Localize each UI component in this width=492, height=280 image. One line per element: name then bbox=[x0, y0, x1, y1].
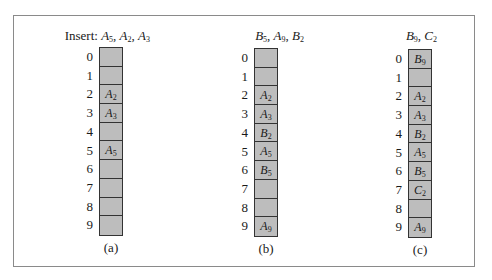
table-slot: B5 bbox=[409, 162, 431, 181]
slot-key-subscript: 2 bbox=[268, 132, 272, 141]
slot-index: 3 bbox=[234, 105, 248, 124]
table-slot: B9 bbox=[409, 50, 431, 69]
slot-index: 0 bbox=[388, 50, 402, 69]
slot-key-letter: A bbox=[414, 108, 421, 122]
slot-key-subscript: 5 bbox=[268, 169, 272, 178]
slot-key-subscript: 2 bbox=[422, 189, 426, 198]
table-slot bbox=[100, 179, 122, 198]
slot-index: 1 bbox=[234, 68, 248, 87]
slot-index: 9 bbox=[234, 217, 248, 236]
slot-key-subscript: 9 bbox=[422, 58, 426, 67]
table-slot: A3 bbox=[100, 104, 122, 123]
header-key: A3 bbox=[138, 28, 150, 43]
table-slot: A9 bbox=[255, 217, 277, 236]
slot-key-letter: B bbox=[414, 164, 421, 178]
slot-index: 7 bbox=[388, 181, 402, 200]
slot-key-letter: B bbox=[414, 52, 421, 66]
slot-index: 7 bbox=[234, 180, 248, 199]
table-slot: B2 bbox=[255, 124, 277, 143]
table-slot bbox=[255, 49, 277, 68]
slot-key-letter: A bbox=[105, 87, 112, 101]
slot-index: 6 bbox=[234, 161, 248, 180]
header-key: A9 bbox=[274, 28, 286, 43]
slot-index: 3 bbox=[388, 106, 402, 125]
table-slot bbox=[100, 216, 122, 235]
table-slot bbox=[409, 200, 431, 219]
slot-index: 6 bbox=[79, 160, 93, 179]
slot-key-subscript: 5 bbox=[422, 151, 426, 160]
panel-header: B9, C2 bbox=[406, 29, 437, 47]
slot-index: 5 bbox=[388, 144, 402, 163]
slot-index: 8 bbox=[234, 199, 248, 218]
slot-index: 2 bbox=[234, 86, 248, 105]
slot-key-subscript: 2 bbox=[113, 93, 117, 102]
header-key: B9 bbox=[406, 28, 418, 43]
table-slot bbox=[255, 68, 277, 87]
header-key: A2 bbox=[120, 28, 132, 43]
slot-index: 5 bbox=[79, 142, 93, 161]
slot-index: 8 bbox=[388, 200, 402, 219]
slot-index: 4 bbox=[388, 125, 402, 144]
table-slot bbox=[100, 123, 122, 142]
slot-index: 4 bbox=[79, 123, 93, 142]
table-slot bbox=[409, 69, 431, 88]
table-slot: B2 bbox=[409, 125, 431, 144]
slot-index: 5 bbox=[234, 143, 248, 162]
table-slot: A9 bbox=[409, 218, 431, 237]
panel-caption: (b) bbox=[251, 241, 281, 257]
table-slot bbox=[100, 198, 122, 217]
panel-caption: (c) bbox=[405, 242, 435, 258]
slot-key-subscript: 2 bbox=[422, 133, 426, 142]
panel-header: B5, A9, B2 bbox=[255, 29, 304, 47]
header-key: C2 bbox=[424, 28, 437, 43]
slot-key-letter: A bbox=[260, 144, 267, 158]
slot-index: 1 bbox=[79, 67, 93, 86]
slot-key-subscript: 5 bbox=[268, 150, 272, 159]
table-slot bbox=[100, 160, 122, 179]
table-slot: A5 bbox=[409, 143, 431, 162]
slot-key-subscript: 9 bbox=[268, 225, 272, 234]
slot-index: 4 bbox=[234, 124, 248, 143]
slot-key-letter: A bbox=[414, 220, 421, 234]
slot-key-letter: A bbox=[414, 145, 421, 159]
slot-index: 8 bbox=[79, 198, 93, 217]
slot-index: 7 bbox=[79, 179, 93, 198]
table-slot bbox=[100, 48, 122, 67]
table-slot: A3 bbox=[255, 105, 277, 124]
slot-index: 2 bbox=[79, 85, 93, 104]
hash-table: B9A2A3B2A5B5C2A9 bbox=[408, 49, 432, 238]
panel-caption: (a) bbox=[96, 240, 126, 256]
slot-key-letter: A bbox=[260, 88, 267, 102]
slot-index: 3 bbox=[79, 104, 93, 123]
slot-index: 0 bbox=[79, 48, 93, 67]
slot-key-subscript: 3 bbox=[422, 114, 426, 123]
hash-table: A2A3A5 bbox=[99, 47, 123, 236]
slot-key-subscript: 3 bbox=[268, 113, 272, 122]
table-slot bbox=[255, 199, 277, 218]
slot-key-letter: C bbox=[414, 183, 422, 197]
header-prefix: Insert: bbox=[65, 28, 101, 43]
slot-index: 9 bbox=[388, 218, 402, 237]
table-slot bbox=[100, 67, 122, 86]
table-slot bbox=[255, 180, 277, 199]
slot-key-letter: A bbox=[260, 107, 267, 121]
slot-key-letter: B bbox=[260, 126, 267, 140]
slot-key-subscript: 2 bbox=[422, 95, 426, 104]
slot-index: 0 bbox=[234, 49, 248, 68]
slot-key-subscript: 9 bbox=[422, 226, 426, 235]
slot-index: 6 bbox=[388, 162, 402, 181]
slot-index: 9 bbox=[79, 216, 93, 235]
table-slot: A3 bbox=[409, 106, 431, 125]
slot-key-letter: A bbox=[105, 106, 112, 120]
slot-key-letter: A bbox=[260, 219, 267, 233]
slot-key-subscript: 2 bbox=[268, 94, 272, 103]
header-key: B5 bbox=[255, 28, 267, 43]
slot-key-letter: B bbox=[414, 127, 421, 141]
table-slot: A5 bbox=[100, 141, 122, 160]
panel-header: Insert: A5, A2, A3 bbox=[65, 29, 150, 47]
hash-table: A2A3B2A5B5A9 bbox=[254, 48, 278, 237]
header-key: B2 bbox=[292, 28, 304, 43]
table-slot: A2 bbox=[255, 86, 277, 105]
table-slot: C2 bbox=[409, 181, 431, 200]
slot-key-subscript: 5 bbox=[422, 170, 426, 179]
